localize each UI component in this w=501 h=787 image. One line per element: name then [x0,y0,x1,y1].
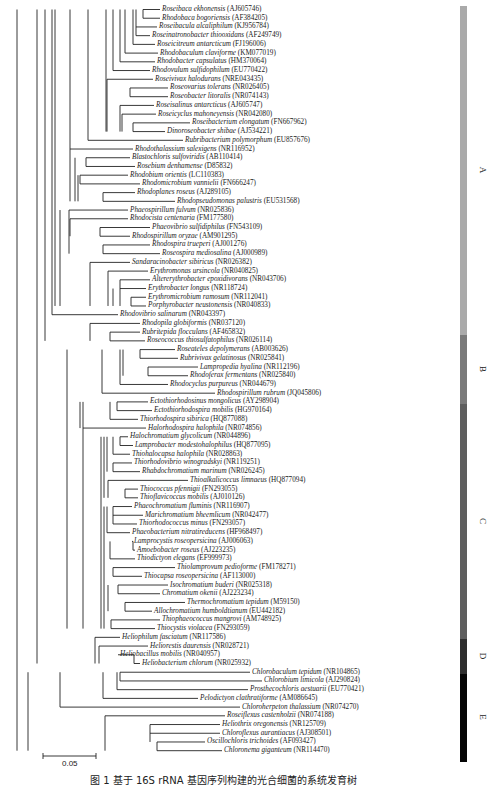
leaf-label: Roseiflexus castenholzii (NR074188) [227,711,334,720]
accession-number: (AJ006063) [217,537,253,545]
leaf-label: Heliophilum fasciatum (NR117586) [122,633,226,642]
accession-number: (FN543109) [225,223,262,231]
leaf-label: Rhodopila globiformis (NR037120) [142,319,245,328]
leaf-label: Porphyrobacter neustonensis (NR040833) [148,301,270,310]
species-name: Rhodovibrio salinarum [120,310,187,318]
leaf-label: Chlorobium limicola (AJ290824) [264,676,360,685]
accession-number: (NR117586) [188,633,226,641]
species-name: Roseococcus thiosulfatophilus [147,336,234,344]
accession-number: (EU857676) [272,136,310,144]
species-name: Rubribacterium polymorphum [185,136,272,144]
species-name: Phaeochromatium fluminis [134,502,212,510]
accession-number: (NR125709) [288,720,326,728]
species-name: Chloroflexus aurantiacus [222,729,295,737]
leaf-label: Phaeospirillum fulvum (NR025836) [130,206,234,215]
species-name: Lamprocystis roseopersicina [134,537,217,545]
species-name: Pelodictyon clathratiforme [200,694,278,702]
leaf-label: Roseococcus thiosulfatophilus (NR026114) [147,336,272,345]
accession-number: (AM901295) [198,232,238,240]
species-name: Altererythrobacter epoxidivorans [152,275,248,283]
clade-bar-c [460,404,467,639]
species-name: Phaeospirillum fulvum [130,206,196,214]
leaf-label: Chloronema giganteum (NR114470) [224,746,330,755]
species-name: Allochromatium humboldtianum [154,607,247,615]
accession-number: (NR116952) [217,145,255,153]
leaf-label: Lampropedia hyalina (NR112196) [200,363,300,372]
clade-label-d: D [478,652,488,659]
species-name: Porphyrobacter neustonensis [148,301,232,309]
leaf-label: Rhodothalassium salexigens (NR116952) [135,145,255,154]
leaf-label: Roseovarius tolerans (NR026405) [170,83,269,92]
leaf-label: Roseateles depolymerans (AB003626) [177,345,288,354]
accession-number: (HQ877094) [267,476,306,484]
accession-number: (NR040957) [182,650,220,658]
leaf-label: Thioalkalicoccus limnaeus (HQ877094) [190,476,305,485]
accession-number: (M59150) [269,598,300,606]
leaf-label: Rhodoplanes roseus (AJ289105) [137,188,231,197]
accession-number: (AY298904) [241,397,279,405]
accession-number: (NR112041) [230,293,268,301]
accession-number: (NR025318) [234,581,272,589]
species-name: Rhodospira trueperi [152,240,211,248]
species-name: Thioflavicoccus mobilis [140,493,208,501]
accession-number: (HG970164) [233,406,272,414]
species-name: Rhodoplanes roseus [137,188,195,196]
accession-number: (AJ534221) [236,127,272,135]
leaf-label: Thioflavicoccus mobilis (AJ010126) [140,493,245,502]
leaf-label: Amoebobacter roseus (AJ223235) [137,546,235,555]
species-name: Roseateles depolymerans [177,345,250,353]
leaf-label: Thiohalocapsa halophila (NR028863) [132,450,242,459]
species-name: Heliothrix oregonensis [222,720,288,728]
leaf-label: Chromatium okenii (AJ223234) [162,589,254,598]
species-name: Thiohalocapsa halophila [132,450,204,458]
leaf-label: Rhodobaca bogoriensis (AF384205) [162,14,267,23]
accession-number: (AB003626) [250,345,288,353]
leaf-label: Lamprobacter modestohalophilus (HQ877095… [135,441,271,450]
accession-number: (HF968497) [225,528,262,536]
accession-number: (NR026245) [227,467,265,475]
accession-number: (HM370064) [227,57,267,65]
leaf-label: Prosthecochloris aestuarii (EU770421) [250,685,364,694]
leaf-label: Halochromatium glycolicum (NR044896) [130,432,250,441]
species-name: Thiococcus pfennigii [140,485,200,493]
accession-number: (NR043397) [187,310,225,318]
leaf-label: Rhodocista centenaria (FM177580) [130,214,233,223]
species-name: Roseivivax halodurans [155,75,221,83]
species-name: Rhodobacter capsulatus [157,57,227,65]
species-name: Chloroherpeton thalassium [242,703,321,711]
accession-number: (NR025836) [196,206,234,214]
species-name: Rhabdochromatium marinum [142,467,227,475]
leaf-label: Rhodobium orientis (LC110383) [130,171,224,180]
accession-number: (NR074270) [321,703,359,711]
accession-number: (AJ308501) [295,729,331,737]
leaf-label: Thermochromatium tepidum (M59150) [187,598,300,607]
species-name: Heliophilum fasciatum [122,633,188,641]
species-name: Oscillochloris trichoides [207,737,278,745]
leaf-label: Isochromatium buderi (NR025318) [170,581,272,590]
species-name: Halochromatium glycolicum [130,432,212,440]
species-name: Rhodocyclus purpureus [170,380,238,388]
accession-number: (AJ223234) [217,589,253,597]
accession-number: (NR025841) [246,354,284,362]
leaf-label: Roseibacula alcaliphilum (KJ956784) [159,22,269,31]
accession-number: (NR043706) [248,275,286,283]
leaf-label: Rubribacterium polymorphum (EU857676) [185,136,310,145]
accession-number: (NR074188) [296,711,334,719]
leaf-label: Rhodocyclus purpureus (NR044679) [170,380,276,389]
species-name: Rhodothalassium salexigens [135,145,217,153]
leaf-label: Chloroflexus aurantiacus (AJ308501) [222,729,331,738]
accession-number: (NR114470) [292,746,330,754]
species-name: Thiorhodospira sibirica [140,415,209,423]
species-name: Rhodobium orientis [130,171,187,179]
accession-number: (AJ605747) [226,101,262,109]
leaf-label: Rosebium denhamense (D85832) [137,162,232,171]
species-name: Rhodocista centenaria [130,214,195,222]
leaf-label: Rubrivivax gelatinosus (NR025841) [180,354,284,363]
accession-number: (NR044679) [238,380,276,388]
species-name: Thiophaeococcus mangrovi [162,615,241,623]
accession-number: (FN293055) [200,485,237,493]
accession-number: (AM748925) [241,615,281,623]
leaf-label: Erythromonas ursincola (NR040825) [150,267,258,276]
accession-number: (FM178271) [257,563,296,571]
accession-number: (NR118724) [209,284,247,292]
